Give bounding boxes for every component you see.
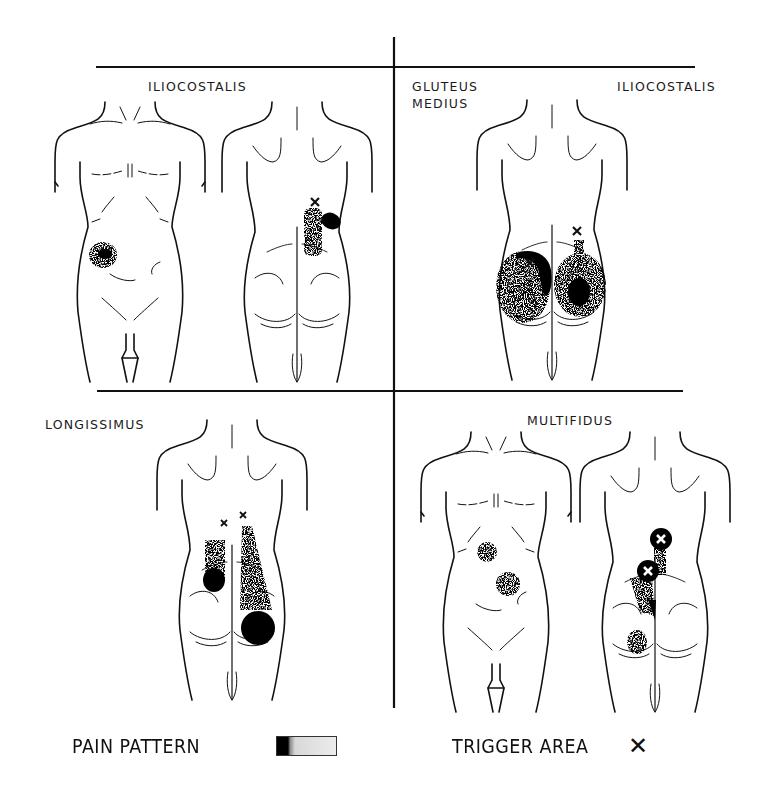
trigger-area-x-icon: ✕ — [628, 734, 648, 758]
panel-bottom-right-multifidus — [421, 432, 730, 712]
pain-pattern-swatch — [276, 736, 337, 756]
panel-bottom-left-longissimus — [157, 420, 307, 700]
pain-pattern-gluteus-medius — [496, 251, 552, 323]
label-iliocostalis-top-left: ILIOCOSTALIS — [148, 78, 247, 95]
pain-pattern-diagram — [0, 0, 775, 796]
pain-pattern-iliocostalis-lumbar — [554, 240, 606, 317]
panel-top-right-gluteus-iliocostalis — [477, 100, 627, 380]
legend-pain-pattern-label: PAIN PATTERN — [72, 735, 200, 757]
label-longissimus: LONGISSIMUS — [45, 416, 145, 433]
trigger-point-icon — [221, 512, 246, 526]
trigger-point-icon — [311, 198, 319, 206]
pain-pattern-front-abdomen — [89, 242, 117, 268]
pain-pattern-longissimus — [203, 526, 275, 645]
label-gluteus-medius: GLUTEUS MEDIUS — [412, 78, 478, 112]
legend-trigger-area-label: TRIGGER AREA — [452, 735, 588, 757]
pain-pattern-back-multifidus — [627, 528, 672, 654]
label-iliocostalis-top-right: ILIOCOSTALIS — [617, 78, 716, 95]
pain-pattern-back-lumbar — [304, 208, 343, 256]
label-multifidus: MULTIFIDUS — [527, 412, 613, 429]
panel-top-left-iliocostalis — [55, 102, 372, 382]
pain-pattern-front-abdomen — [477, 542, 520, 596]
panel-dividers — [96, 37, 695, 708]
